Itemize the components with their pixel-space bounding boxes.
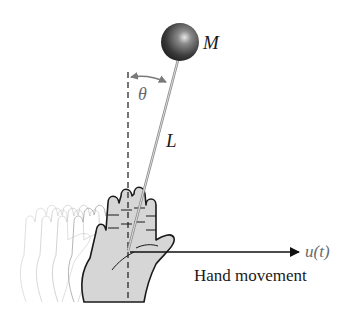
mass-ball [161,23,199,61]
input-label: u(t) [305,242,330,262]
angle-label: θ [138,84,147,105]
hand-movement-caption: Hand movement [194,266,307,286]
length-label: L [166,130,177,152]
mass-label: M [203,32,219,54]
angle-arrow [131,76,166,82]
diagram-canvas [0,0,362,326]
pendulum-diagram: M θ L u(t) Hand movement [0,0,362,326]
